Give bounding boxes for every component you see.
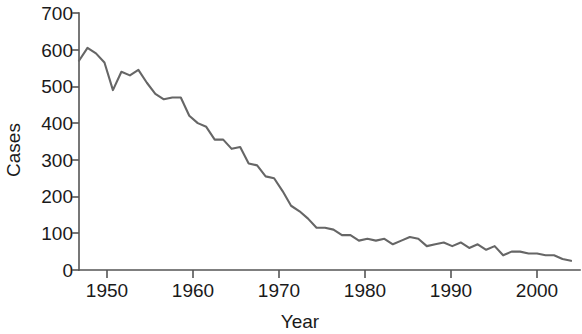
line-chart-svg: 700 600 500 400 300 200 100 0 1950 1960 …	[0, 0, 582, 334]
y-tick-label-600: 600	[41, 40, 73, 61]
y-axis-tick-labels: 700 600 500 400 300 200 100 0	[41, 3, 73, 281]
y-tick-label-100: 100	[41, 223, 73, 244]
x-tick-label-1990: 1990	[430, 280, 472, 301]
x-tick-label-1980: 1980	[344, 280, 386, 301]
x-tick-label-1950: 1950	[86, 280, 128, 301]
x-axis-tick-labels: 1950 1960 1970 1980 1990 2000	[86, 280, 558, 301]
y-tick-label-0: 0	[62, 260, 73, 281]
x-tick-label-1970: 1970	[258, 280, 300, 301]
data-series-line	[79, 48, 571, 261]
y-axis-tick-marks	[72, 13, 79, 270]
y-tick-label-500: 500	[41, 76, 73, 97]
chart-figure: 700 600 500 400 300 200 100 0 1950 1960 …	[0, 0, 582, 334]
x-axis-tick-marks	[107, 270, 537, 278]
y-tick-label-200: 200	[41, 186, 73, 207]
y-tick-label-300: 300	[41, 150, 73, 171]
y-tick-label-700: 700	[41, 3, 73, 24]
y-axis-title: Cases	[3, 123, 24, 177]
axis-lines	[79, 13, 580, 270]
x-axis-title: Year	[281, 311, 320, 332]
y-tick-label-400: 400	[41, 113, 73, 134]
x-tick-label-2000: 2000	[516, 280, 558, 301]
x-tick-label-1960: 1960	[172, 280, 214, 301]
